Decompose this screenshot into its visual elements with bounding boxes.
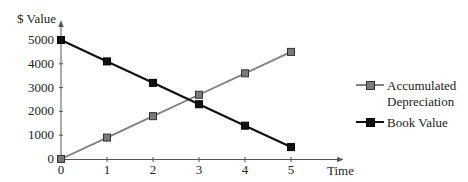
x-tick-label: 5 <box>281 163 301 177</box>
y-tick-label: 5000 <box>10 33 54 47</box>
square-marker-icon <box>150 113 157 120</box>
series-book-value <box>58 37 295 151</box>
x-tick-label: 0 <box>51 163 71 177</box>
y-tick-label: 1000 <box>10 128 54 142</box>
square-marker-icon <box>288 144 295 151</box>
x-axis-label: Time <box>327 164 354 178</box>
square-marker-icon <box>366 81 375 90</box>
line-chart: $ Value 010002000300040005000 012345 Tim… <box>0 0 468 182</box>
y-tick-label: 3000 <box>10 81 54 95</box>
y-axis-arrow-icon <box>59 21 64 27</box>
series-line <box>61 52 291 159</box>
square-marker-icon <box>196 101 203 108</box>
series-accumulated-depreciation <box>58 48 295 162</box>
legend-label: Book Value <box>387 115 448 131</box>
legend-item-book-value: Book Value <box>356 115 448 131</box>
y-tick-label: 2000 <box>10 104 54 118</box>
square-marker-icon <box>366 118 375 127</box>
square-marker-icon <box>104 134 111 141</box>
y-tick-label: 0 <box>10 152 54 166</box>
legend-item-accumulated-depreciation: Accumulated Depreciation <box>356 78 456 110</box>
x-tick-label: 4 <box>235 163 255 177</box>
series-line <box>61 40 291 147</box>
series-layer <box>58 37 295 163</box>
legend-label: Accumulated <box>387 78 456 94</box>
x-tick-label: 1 <box>97 163 117 177</box>
x-tick-label: 3 <box>189 163 209 177</box>
y-axis-label: $ Value <box>17 12 56 26</box>
legend-label-cont: Depreciation <box>387 94 456 110</box>
square-marker-icon <box>104 58 111 65</box>
x-axis-arrow-icon <box>337 157 343 162</box>
x-tick-label: 2 <box>143 163 163 177</box>
square-marker-icon <box>196 91 203 98</box>
y-tick-label: 4000 <box>10 57 54 71</box>
square-marker-icon <box>58 37 65 44</box>
square-marker-icon <box>242 70 249 77</box>
square-marker-icon <box>150 79 157 86</box>
square-marker-icon <box>288 48 295 55</box>
square-marker-icon <box>242 122 249 129</box>
